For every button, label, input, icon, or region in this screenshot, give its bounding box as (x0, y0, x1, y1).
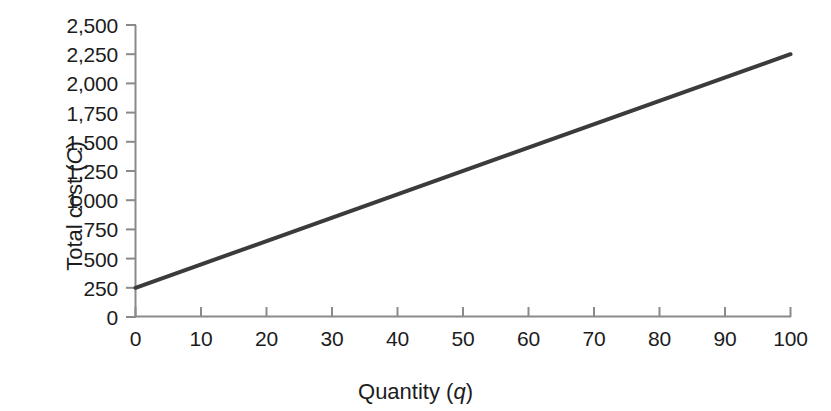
x-axis-title-variable: q (453, 379, 465, 404)
x-tick-label-0: 0 (130, 328, 141, 349)
y-axis-title-paren-close: ) (62, 141, 87, 148)
x-tick-label-20: 20 (255, 328, 278, 349)
y-axis-title-paren-open: ( (62, 164, 87, 177)
x-tick-label-50: 50 (452, 328, 475, 349)
y-tick-label-1750: 1,750 (40, 102, 118, 123)
x-tick-label-40: 40 (386, 328, 409, 349)
y-axis-title-variable: C (62, 148, 87, 164)
y-tick-label-0: 0 (40, 307, 118, 328)
x-axis-title-text: Quantity (358, 379, 440, 404)
y-axis-title: Total cost (C) (62, 141, 88, 271)
x-axis-title-paren-open: ( (440, 379, 453, 404)
y-tick-label-2250: 2,250 (40, 44, 118, 65)
x-axis-title: Quantity (q) (0, 379, 831, 405)
y-tick-label-2500: 2,500 (40, 15, 118, 36)
x-tick-label-80: 80 (648, 328, 671, 349)
x-axis-title-paren-close: ) (466, 379, 473, 404)
total-cost-line (136, 54, 791, 288)
x-tick-label-90: 90 (714, 328, 737, 349)
x-tick-label-100: 100 (773, 328, 807, 349)
y-tick-label-250: 250 (40, 277, 118, 298)
total-cost-chart: 0 250 500 750 1,000 1,250 1,500 1,750 2,… (0, 0, 831, 411)
x-tick-label-30: 30 (321, 328, 344, 349)
plot-area (0, 0, 831, 411)
y-axis-title-text: Total cost (62, 177, 87, 270)
x-tick-label-60: 60 (517, 328, 540, 349)
x-tick-label-10: 10 (190, 328, 213, 349)
y-tick-label-2000: 2,000 (40, 73, 118, 94)
x-tick-label-70: 70 (583, 328, 606, 349)
